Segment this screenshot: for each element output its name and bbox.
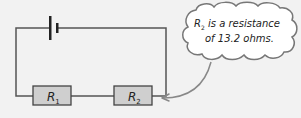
battery-icon [49, 16, 59, 40]
callout-line-2: of 13.2 ohms. [205, 33, 274, 44]
circuit-diagram: R1 R2 R2 is a resistance of 13.2 ohms. [0, 0, 301, 118]
thought-cloud: R2 is a resistance of 13.2 ohms. [183, 2, 297, 59]
callout-line-1: R2 is a resistance [194, 18, 280, 31]
callout-arrow [162, 62, 211, 101]
resistor-r1: R1 [33, 86, 71, 106]
resistor-r2: R2 [114, 86, 152, 106]
